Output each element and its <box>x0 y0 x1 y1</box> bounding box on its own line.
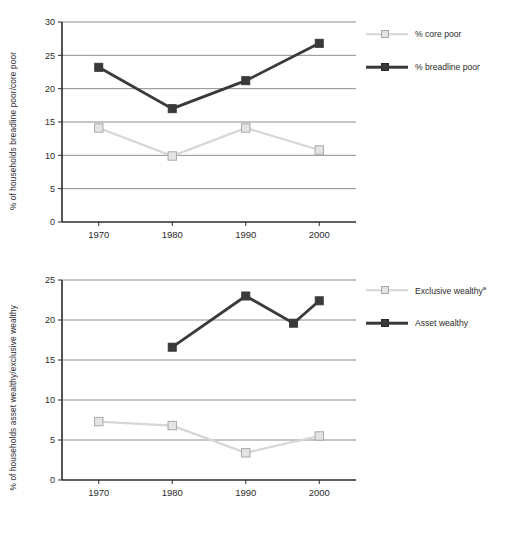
y-axis-title-bottom: % of households asset wealthy/exclusive … <box>0 262 26 533</box>
legend-item-core-poor: % core poor <box>366 27 480 41</box>
data-point-marker <box>168 152 176 160</box>
x-tick-label: 2000 <box>309 229 330 240</box>
data-point-marker <box>95 63 103 71</box>
legend-label-exclusive-wealthy-text: Exclusive wealthy <box>415 285 483 295</box>
data-point-marker <box>315 146 323 154</box>
y-tick-label: 20 <box>45 84 55 94</box>
y-tick-label: 25 <box>45 275 55 285</box>
legend-label-exclusive-wealthy: Exclusive wealthya <box>415 285 486 296</box>
x-tick-label: 1980 <box>162 487 183 498</box>
y-tick-label: 10 <box>45 151 55 161</box>
data-point-marker <box>315 297 323 305</box>
y-tick-label: 15 <box>45 117 55 127</box>
legend-label-asset-wealthy: Asset wealthy <box>415 318 468 328</box>
y-axis-title-top: % of households breadline poor/core poor <box>0 0 26 262</box>
y-tick-label: 20 <box>45 315 55 325</box>
legend-label-exclusive-wealthy-superscript: a <box>483 285 486 291</box>
chart-bottom: % of households asset wealthy/exclusive … <box>0 262 523 533</box>
data-point-marker <box>315 432 323 440</box>
x-tick-label: 1970 <box>88 487 109 498</box>
y-tick-label: 15 <box>45 355 55 365</box>
series-line-exclusive-wealthy <box>99 422 320 453</box>
data-point-marker <box>315 39 323 47</box>
data-point-marker <box>168 343 176 351</box>
series-line-breadline-poor <box>99 43 320 108</box>
y-tick-label: 0 <box>50 475 55 485</box>
series-line-core-poor <box>99 128 320 156</box>
data-point-marker <box>168 421 176 429</box>
y-tick-label: 25 <box>45 51 55 61</box>
x-tick-label: 1970 <box>88 229 109 240</box>
legend-bottom: Exclusive wealthya Asset wealthy <box>366 283 486 349</box>
y-tick-label: 5 <box>50 435 55 445</box>
data-point-marker <box>242 124 250 132</box>
data-point-marker <box>95 417 103 425</box>
data-point-marker <box>242 77 250 85</box>
y-tick-label: 0 <box>50 217 55 227</box>
legend-swatch-light-icon <box>366 284 408 296</box>
legend-swatch-dark-icon <box>366 317 408 329</box>
y-tick-label: 10 <box>45 395 55 405</box>
data-point-marker <box>168 105 176 113</box>
legend-item-asset-wealthy: Asset wealthy <box>366 316 486 330</box>
data-point-marker <box>95 124 103 132</box>
legend-top: % core poor % breadline poor <box>366 27 480 93</box>
data-point-marker <box>242 292 250 300</box>
y-tick-label: 5 <box>50 184 55 194</box>
x-tick-label: 2000 <box>309 487 330 498</box>
y-tick-label: 30 <box>45 17 55 27</box>
legend-swatch-dark-icon <box>366 61 408 73</box>
legend-item-exclusive-wealthy: Exclusive wealthya <box>366 283 486 297</box>
legend-label-breadline-poor: % breadline poor <box>415 62 480 72</box>
legend-item-breadline-poor: % breadline poor <box>366 60 480 74</box>
data-point-marker <box>242 449 250 457</box>
chart-top: % of households breadline poor/core poor… <box>0 0 523 262</box>
legend-label-core-poor: % core poor <box>415 29 461 39</box>
x-tick-label: 1990 <box>235 229 256 240</box>
x-tick-label: 1980 <box>162 229 183 240</box>
legend-swatch-light-icon <box>366 28 408 40</box>
data-point-marker <box>290 319 298 327</box>
x-tick-label: 1990 <box>235 487 256 498</box>
